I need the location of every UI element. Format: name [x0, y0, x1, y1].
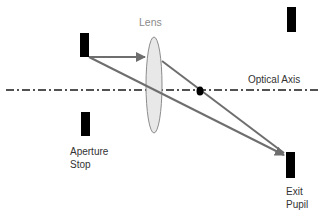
optics-diagram	[0, 0, 321, 222]
focal-point	[197, 87, 204, 96]
exit-pupil-label-line2: Pupil	[286, 199, 308, 211]
exit-pupil-bottom	[286, 152, 295, 178]
aperture-stop-top	[80, 33, 89, 57]
lens-shape	[146, 37, 162, 133]
aperture-stop-label-line2: Stop	[70, 159, 91, 171]
chief-ray	[89, 57, 284, 155]
lens-label: Lens	[139, 16, 162, 28]
aperture-stop-bottom	[81, 112, 90, 136]
exit-pupil-label-line1: Exit	[286, 186, 303, 198]
optical-axis-label: Optical Axis	[248, 74, 300, 86]
aperture-stop-label-line1: Aperture	[70, 146, 108, 158]
exit-pupil-top	[287, 7, 296, 32]
